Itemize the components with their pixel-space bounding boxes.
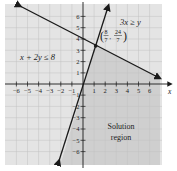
inequality-label-2: 3x ≥ y [119,17,141,27]
svg-text:−6: −6 [13,87,21,94]
svg-text:−5: −5 [73,137,80,144]
svg-text:): ) [123,29,127,43]
svg-text:1: 1 [76,69,79,76]
inequality-graph: −6 −5 −4 −3 −2 −1 1 2 3 4 5 6 6 5 4 3 2 … [0,0,177,171]
svg-text:5: 5 [137,87,140,94]
svg-text:5: 5 [76,24,79,31]
svg-text:−2: −2 [57,87,64,94]
svg-text:8: 8 [105,29,108,35]
svg-text:−5: −5 [24,87,31,94]
svg-text:−3: −3 [46,87,53,94]
svg-text:−4: −4 [35,87,43,94]
svg-text:7: 7 [105,37,108,43]
svg-text:24: 24 [115,29,121,35]
svg-text:2: 2 [76,58,79,65]
svg-text:3: 3 [76,47,79,54]
svg-text:−6: −6 [73,148,81,155]
svg-text:1: 1 [92,87,95,94]
svg-text:−4: −4 [73,125,81,132]
svg-text:7: 7 [117,37,120,43]
intersection-point [94,44,98,48]
svg-text:2: 2 [104,87,107,94]
inequality-label-1: x + 2y ≤ 8 [19,52,56,62]
svg-text:3: 3 [115,87,118,94]
svg-text:(: ( [100,29,104,43]
solution-region-label-line2: region [111,133,131,142]
solution-region-label-line1: Solution [107,122,134,131]
x-axis-label: x [167,87,172,96]
svg-text:−1: −1 [73,91,80,98]
